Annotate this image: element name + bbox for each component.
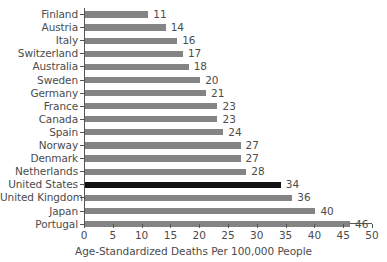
- bar-value-label: 27: [246, 139, 259, 152]
- bar-value-label: 20: [205, 74, 218, 87]
- bar-value-label: 24: [228, 126, 241, 139]
- bar: [85, 38, 177, 44]
- category-tick-mark: [80, 171, 84, 172]
- x-axis-title: Age-Standardized Deaths Per 100,000 Peop…: [0, 245, 387, 257]
- category-label: Austria: [0, 21, 78, 34]
- bar-value-label: 11: [153, 8, 166, 21]
- x-axis-tick-mark: [286, 224, 287, 228]
- bar-value-label: 21: [211, 87, 224, 100]
- x-axis-tick-label: 25: [213, 229, 243, 241]
- bar-row: France23: [0, 100, 387, 113]
- bar-row: Japan40: [0, 205, 387, 218]
- category-tick-mark: [80, 145, 84, 146]
- bar-value-label: 34: [286, 178, 299, 191]
- bar-row: Denmark27: [0, 152, 387, 165]
- category-tick-mark: [80, 132, 84, 133]
- bar-value-label: 40: [320, 205, 333, 218]
- x-axis-tick-mark: [170, 224, 171, 228]
- bar-row: Austria14: [0, 21, 387, 34]
- category-tick-mark: [80, 106, 84, 107]
- category-tick-mark: [80, 14, 84, 15]
- category-tick-mark: [80, 197, 84, 198]
- category-label: Netherlands: [0, 165, 78, 178]
- bar: [85, 129, 223, 135]
- bar: [85, 11, 148, 17]
- bar-value-label: 17: [188, 47, 201, 60]
- x-axis-tick-label: 15: [155, 229, 185, 241]
- category-tick-mark: [80, 80, 84, 81]
- category-tick-mark: [80, 27, 84, 28]
- category-tick-mark: [80, 93, 84, 94]
- bar: [85, 195, 292, 201]
- bar-value-label: 18: [194, 60, 207, 73]
- x-axis-tick-mark: [84, 224, 85, 228]
- bar: [85, 221, 350, 227]
- bar-row: Germany21: [0, 87, 387, 100]
- category-label: France: [0, 100, 78, 113]
- bar: [85, 51, 183, 57]
- bar-value-label: 27: [246, 152, 259, 165]
- bar-row: United States34: [0, 178, 387, 191]
- category-label: Denmark: [0, 152, 78, 165]
- x-axis-tick-mark: [314, 224, 315, 228]
- bar-value-label: 23: [222, 113, 235, 126]
- bar: [85, 103, 217, 109]
- bar-chart: Finland11Austria14Italy16Switzerland17Au…: [0, 0, 387, 262]
- x-axis-tick-mark: [199, 224, 200, 228]
- x-axis-tick-label: 10: [127, 229, 157, 241]
- category-label: United Kingdom: [0, 191, 78, 204]
- category-tick-mark: [80, 158, 84, 159]
- x-axis-tick-label: 30: [242, 229, 272, 241]
- bar-row: Spain24: [0, 126, 387, 139]
- category-label: Canada: [0, 113, 78, 126]
- x-axis-tick-label: 0: [69, 229, 99, 241]
- bar-row: Finland11: [0, 8, 387, 21]
- category-label: Sweden: [0, 74, 78, 87]
- bar: [85, 77, 200, 83]
- category-tick-mark: [80, 211, 84, 212]
- bar-value-label: 16: [182, 34, 195, 47]
- bar: [85, 208, 315, 214]
- bar: [85, 142, 241, 148]
- bar-value-label: 23: [222, 100, 235, 113]
- category-label: Finland: [0, 8, 78, 21]
- category-label: Spain: [0, 126, 78, 139]
- bar-row: United Kingdom36: [0, 191, 387, 204]
- category-label: United States: [0, 178, 78, 191]
- category-tick-mark: [80, 119, 84, 120]
- bar: [85, 169, 246, 175]
- x-axis-tick-mark: [257, 224, 258, 228]
- category-label: Germany: [0, 87, 78, 100]
- bar-row: Australia18: [0, 60, 387, 73]
- bar-row: Canada23: [0, 113, 387, 126]
- x-axis-tick-label: 50: [357, 229, 387, 241]
- x-axis-tick-label: 5: [98, 229, 128, 241]
- category-label: Japan: [0, 205, 78, 218]
- bar: [85, 90, 206, 96]
- category-label: Portugal: [0, 218, 78, 231]
- bar: [85, 64, 189, 70]
- category-tick-mark: [80, 40, 84, 41]
- x-axis-tick-mark: [142, 224, 143, 228]
- x-axis-tick-label: 20: [184, 229, 214, 241]
- bar: [85, 116, 217, 122]
- x-axis-tick-mark: [343, 224, 344, 228]
- bar-row: Norway27: [0, 139, 387, 152]
- x-axis-tick-label: 40: [299, 229, 329, 241]
- x-axis-tick-mark: [113, 224, 114, 228]
- bar-row: Italy16: [0, 34, 387, 47]
- category-label: Switzerland: [0, 47, 78, 60]
- bar-row: Switzerland17: [0, 47, 387, 60]
- x-axis-tick-label: 35: [271, 229, 301, 241]
- bar-row: Netherlands28: [0, 165, 387, 178]
- bar: [85, 155, 241, 161]
- category-tick-mark: [80, 66, 84, 67]
- x-axis-tick-mark: [228, 224, 229, 228]
- bar-value-label: 36: [297, 191, 310, 204]
- bar-value-label: 28: [251, 165, 264, 178]
- category-label: Italy: [0, 34, 78, 47]
- category-tick-mark: [80, 184, 84, 185]
- category-label: Australia: [0, 60, 78, 73]
- category-tick-mark: [80, 53, 84, 54]
- x-axis-tick-label: 45: [328, 229, 358, 241]
